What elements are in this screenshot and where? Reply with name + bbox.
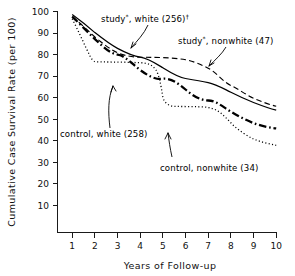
y-tick-label: 30 (38, 158, 50, 168)
y-tick-label: 90 (38, 28, 50, 38)
y-tick-label: 50 (38, 115, 50, 125)
annotation-study-white-main: study (101, 14, 126, 24)
leader-control-white-arrow (111, 86, 116, 92)
series-line-study-nonwhite (72, 17, 276, 107)
annotation-study-white-sup-dagger: † (186, 13, 189, 20)
y-tick-marks (53, 12, 58, 206)
annotation-control-white: control, white (258) (60, 129, 148, 139)
x-tick-label: 10 (270, 241, 282, 251)
series-curves (72, 14, 276, 145)
series-annotations: study*, white (256)† study*, nonwhite (4… (60, 13, 274, 173)
leader-study-nonwhite (209, 47, 226, 66)
y-tick-label: 80 (38, 50, 50, 60)
x-tick-label: 4 (137, 241, 143, 251)
y-tick-label: 60 (38, 93, 50, 103)
y-tick-label: 100 (32, 7, 49, 17)
annotation-study-nonwhite: study*, nonwhite (47) (178, 35, 274, 46)
figure-container: 100 90 80 70 60 50 40 30 20 10 1 2 3 4 5… (0, 0, 295, 276)
x-tick-label: 9 (251, 241, 257, 251)
y-tick-label: 10 (38, 201, 50, 211)
x-tick-marks (72, 233, 276, 239)
y-tick-labels: 100 90 80 70 60 50 40 30 20 10 (32, 7, 49, 211)
y-axis-title: Cumulative Case Survival Rate (per 100) (6, 17, 17, 227)
annotation-study-white: study*, white (256)† (101, 13, 189, 24)
annotation-study-nonwhite-main: study (178, 36, 203, 46)
series-line-study-white (72, 14, 276, 110)
annotation-study-white-rest: , white (256) (129, 14, 186, 24)
leader-study-white (131, 25, 148, 48)
annotation-study-nonwhite-rest: , nonwhite (47) (206, 36, 274, 46)
annotation-control-nonwhite: control, nonwhite (34) (160, 163, 259, 173)
x-tick-label: 1 (69, 241, 75, 251)
x-tick-label: 2 (92, 241, 98, 251)
x-tick-label: 7 (205, 241, 211, 251)
x-tick-label: 5 (160, 241, 166, 251)
y-tick-label: 40 (38, 136, 50, 146)
x-tick-label: 6 (183, 241, 189, 251)
y-tick-label: 20 (38, 179, 50, 189)
y-tick-label: 70 (38, 71, 50, 81)
x-tick-label: 3 (115, 241, 121, 251)
series-line-control-white (72, 17, 276, 129)
x-tick-label: 8 (228, 241, 234, 251)
x-axis-title: Years of Follow-up (123, 260, 217, 271)
x-tick-labels: 1 2 3 4 5 6 7 8 9 10 (69, 241, 282, 251)
survival-curve-chart: 100 90 80 70 60 50 40 30 20 10 1 2 3 4 5… (0, 0, 295, 276)
